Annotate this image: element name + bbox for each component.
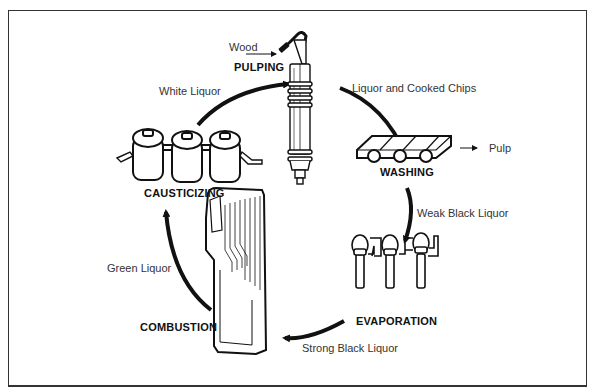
flow-arrow-weak-black-liquor — [405, 188, 411, 241]
wood-input-label: Wood — [229, 41, 258, 53]
flow-arrow-strong-black-liquor — [285, 321, 344, 338]
causticizing-tanks-icon — [117, 129, 262, 182]
flow-label-strong-black-liquor: Strong Black Liquor — [302, 342, 398, 354]
flow-arrow-green-liquor — [166, 212, 211, 310]
diagram-artwork — [0, 0, 595, 390]
flow-label-liquor-cooked-chips: Liquor and Cooked Chips — [352, 82, 476, 94]
stage-label-combustion: COMBUSTION — [140, 321, 217, 333]
stage-label-pulping: PULPING — [234, 61, 284, 73]
stage-label-evaporation: EVAPORATION — [356, 315, 437, 327]
stage-label-washing: WASHING — [380, 166, 434, 178]
flow-label-green-liquor: Green Liquor — [107, 262, 171, 274]
digester-icon — [280, 32, 312, 184]
flow-label-weak-black-liquor: Weak Black Liquor — [417, 207, 509, 219]
output-label-pulp: Pulp — [489, 142, 511, 154]
stage-label-causticizing: CAUSTICIZING — [144, 187, 225, 199]
evaporators-icon — [352, 233, 438, 288]
washer-icon — [357, 136, 451, 162]
flow-label-white-liquor: White Liquor — [159, 85, 221, 97]
